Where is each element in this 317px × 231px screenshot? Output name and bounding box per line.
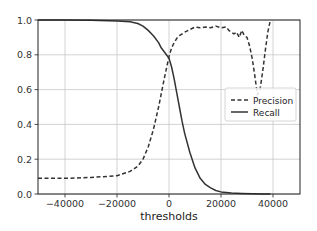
x-tick-label: −20000 (98, 198, 136, 209)
y-tick-label: 0.6 (17, 84, 32, 95)
x-tick-label: 20000 (206, 198, 236, 209)
legend: Precision Recall (225, 88, 296, 121)
x-tick-label: −40000 (46, 198, 84, 209)
y-tick-label: 0.0 (17, 189, 32, 200)
legend-recall-label: Recall (253, 108, 280, 118)
y-tick-label: 0.2 (17, 154, 32, 165)
y-tick-label: 0.8 (17, 49, 32, 60)
legend-precision-label: Precision (253, 96, 293, 106)
y-tick-label: 1.0 (17, 15, 32, 26)
y-axis-ticks: 0.00.20.40.60.81.0 (17, 15, 38, 200)
y-tick-label: 0.4 (17, 119, 32, 130)
x-tick-label: 0 (166, 198, 172, 209)
x-axis-ticks: −40000−2000002000040000 (46, 194, 288, 209)
precision-recall-chart: −40000−2000002000040000 0.00.20.40.60.81… (0, 0, 317, 231)
x-axis-label: thresholds (140, 210, 198, 223)
x-tick-label: 40000 (258, 198, 288, 209)
